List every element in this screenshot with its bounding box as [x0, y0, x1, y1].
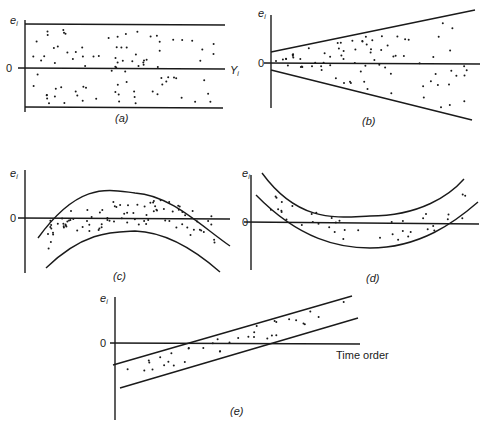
panel-a-ylabel: ei [10, 14, 18, 27]
panel-e-ylabel: ei [100, 292, 108, 305]
panel-c-caption: (c) [113, 270, 126, 282]
panel-b [264, 10, 480, 120]
panel-e-caption: (e) [230, 405, 244, 417]
panel-d-ylabel: ei [242, 167, 250, 180]
panel-e-zero-label: 0 [100, 337, 106, 349]
panel-c-ylabel: ei [10, 167, 18, 180]
panel-a-zero-label: 0 [6, 62, 12, 74]
panel-e-xlabel: Time order [336, 349, 389, 361]
panel-d-caption: (d) [366, 272, 380, 284]
panel-c-zero-label: 0 [10, 212, 16, 224]
panel-c [18, 170, 230, 273]
panel-b-ylabel: ei [258, 7, 266, 20]
panel-d [244, 173, 479, 270]
panel-a-xlabel: Yi [230, 64, 239, 77]
panel-a [18, 20, 225, 112]
panel-a-caption: (a) [115, 112, 129, 124]
panel-d-zero-label: 0 [242, 216, 248, 228]
panel-e [110, 296, 360, 420]
panel-b-zero-label: 0 [258, 57, 264, 69]
panel-b-caption: (b) [362, 115, 376, 127]
residual-plots-figure: ei 0 Yi (a) ei 0 (b) ei 0 (c) ei 0 (d) [0, 0, 489, 428]
